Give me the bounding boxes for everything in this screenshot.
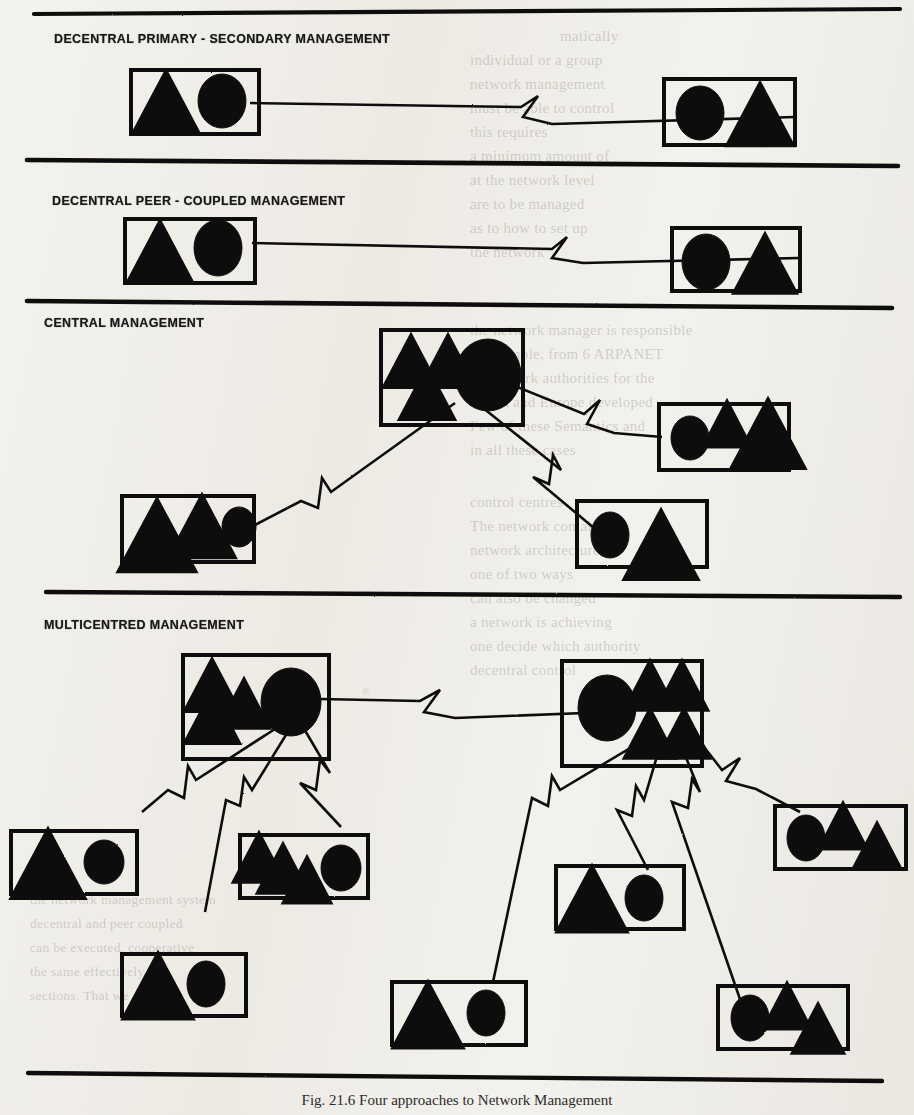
- management-node-circle: [198, 74, 246, 128]
- network-link-zigzag: [690, 729, 800, 812]
- management-node-circle: [625, 875, 663, 921]
- network-link-zigzag: [300, 727, 341, 827]
- node-box: [240, 835, 368, 898]
- panel-central: [122, 330, 790, 570]
- managed-device-triangle: [746, 418, 790, 459]
- management-node-circle: [591, 512, 629, 558]
- managed-device-triangle: [407, 1000, 449, 1039]
- managed-device-triangle: [712, 413, 741, 441]
- node-box: [775, 806, 906, 869]
- management-node-circle: [194, 220, 242, 276]
- management-node-circle: [84, 840, 124, 884]
- managed-device-triangle: [828, 815, 857, 843]
- managed-device-triangle: [292, 869, 321, 897]
- network-link-zigzag: [253, 403, 455, 526]
- managed-device-triangle: [639, 529, 683, 570]
- network-management-figure: [0, 0, 914, 1115]
- panel-decentral-peer-coupled: [125, 219, 800, 291]
- node-box: [125, 219, 255, 283]
- managed-device-triangle: [666, 674, 697, 704]
- managed-device-triangle: [802, 1017, 833, 1047]
- node-box: [392, 982, 526, 1045]
- management-node-circle: [787, 815, 825, 861]
- management-node-circle: [455, 339, 521, 411]
- managed-device-triangle: [146, 88, 186, 125]
- network-link-zigzag: [493, 735, 652, 982]
- management-node-circle: [731, 995, 769, 1041]
- node-box: [659, 404, 790, 470]
- managed-device-triangle: [746, 250, 783, 285]
- management-node-circle: [321, 845, 361, 891]
- managed-device-triangle: [141, 237, 178, 272]
- management-node-circle: [261, 668, 321, 736]
- node-box-hub: [381, 330, 523, 425]
- managed-device-triangle: [137, 971, 179, 1010]
- managed-device-triangle: [26, 848, 70, 889]
- managed-device-triangle: [228, 692, 259, 722]
- panel-title-decentral-peer-coupled: DECENTRAL PEER - COUPLED MANAGEMENT: [52, 194, 345, 208]
- figure-caption: Fig. 21.6 Four approaches to Network Man…: [0, 1092, 914, 1109]
- panel-title-central: CENTRAL MANAGEMENT: [44, 316, 204, 330]
- node-box: [556, 866, 684, 929]
- node-box: [664, 79, 795, 145]
- management-node-circle: [467, 990, 505, 1036]
- node-box: [131, 70, 259, 134]
- panel-multicentred: [11, 655, 906, 1049]
- node-box: [122, 496, 256, 562]
- managed-device-triangle: [410, 381, 443, 413]
- managed-device-triangle: [182, 512, 222, 549]
- management-node-circle: [187, 961, 225, 1007]
- managed-device-triangle: [668, 722, 699, 752]
- node-box: [577, 501, 707, 570]
- management-node-circle: [676, 86, 724, 140]
- managed-device-triangle: [634, 722, 665, 752]
- management-node-circle: [671, 416, 709, 460]
- network-link-zigzag: [320, 690, 610, 718]
- panel-title-decentral-primary-secondary: DECENTRAL PRIMARY - SECONDARY MANAGEMENT: [54, 32, 390, 46]
- managed-device-triangle: [862, 835, 891, 863]
- node-box: [122, 954, 246, 1016]
- node-box: [11, 831, 137, 894]
- managed-device-triangle: [740, 100, 780, 137]
- managed-device-triangle: [571, 884, 613, 923]
- managed-device-triangle: [772, 995, 801, 1023]
- management-node-circle: [222, 507, 256, 547]
- panel-title-multicentred: MULTICENTRED MANAGEMENT: [44, 618, 244, 632]
- node-box-hub: [183, 655, 329, 759]
- managed-device-triangle: [195, 705, 228, 737]
- node-box-hub: [562, 661, 702, 766]
- management-node-circle: [682, 234, 730, 290]
- panel-decentral-primary-secondary: [131, 70, 795, 145]
